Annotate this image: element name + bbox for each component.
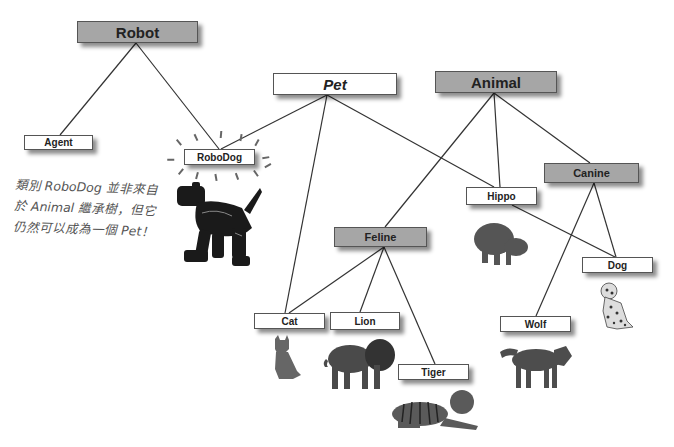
class-box-animal: Animal <box>435 71 557 93</box>
hippo-image <box>472 217 530 269</box>
class-box-agent: Agent <box>24 135 93 150</box>
class-box-robodog: RoboDog <box>184 149 255 165</box>
class-box-hippo: Hippo <box>466 187 537 205</box>
annotation-note: 類別 RoboDog 並非來自 於 Animal 繼承樹，但它 仍然可以成為一個… <box>13 174 180 243</box>
tiger-image <box>390 388 482 432</box>
robot-dog-image <box>172 178 267 273</box>
class-box-lion: Lion <box>330 312 400 330</box>
cat-image <box>271 335 303 381</box>
class-box-canine: Canine <box>544 163 639 183</box>
class-box-robot: Robot <box>77 21 198 43</box>
class-box-tiger: Tiger <box>398 364 469 380</box>
inheritance-diagram: Robot Agent RoboDog Pet Animal Hippo Can… <box>0 0 674 447</box>
class-box-dog: Dog <box>582 257 653 273</box>
interface-box-pet: Pet <box>273 73 397 95</box>
wolf-image <box>498 342 578 392</box>
class-box-wolf: Wolf <box>500 316 571 332</box>
class-box-feline: Feline <box>334 227 427 247</box>
lion-image <box>320 335 400 393</box>
dalmatian-image <box>597 281 642 333</box>
class-box-cat: Cat <box>254 313 325 329</box>
